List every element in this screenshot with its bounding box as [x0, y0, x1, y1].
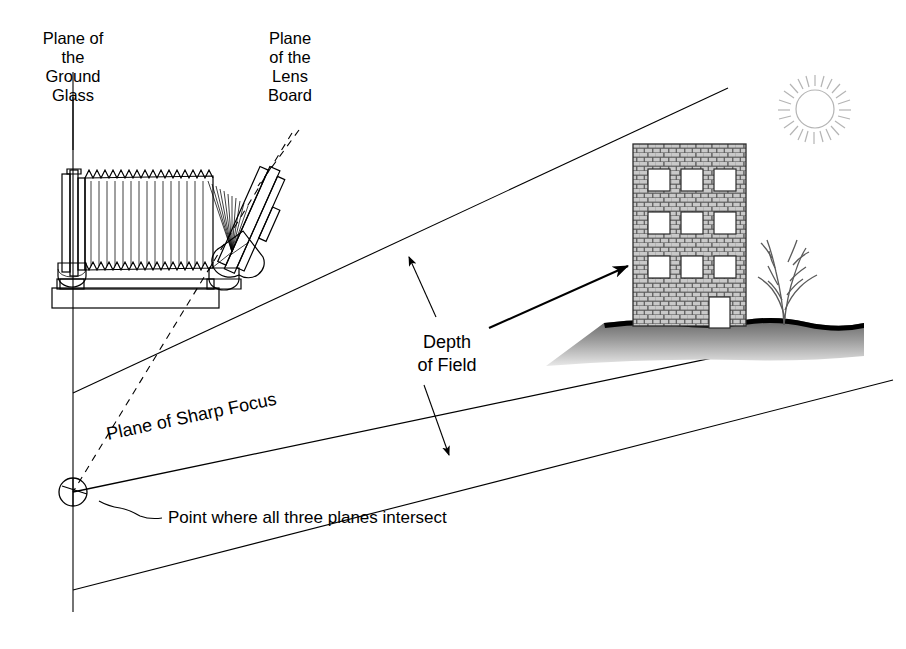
ground-glass-label-line2: the — [62, 48, 85, 66]
lens-board-label-line1: Plane — [269, 29, 311, 47]
intersect-note-leader — [99, 501, 162, 519]
lens-board-label-line2: of the — [269, 48, 310, 66]
lens-board-label-line4: Board — [268, 86, 312, 104]
scheimpflug-diagram: Plane of the Ground Glass Plane of the L… — [0, 0, 906, 649]
view-camera-icon — [52, 163, 295, 308]
building-door — [709, 297, 730, 328]
dof-arrow-down — [424, 385, 449, 455]
intersect-note-label: Point where all three planes intersect — [168, 508, 447, 527]
subject-pointer-arrow — [489, 266, 628, 328]
depth-of-field-label-line2: of Field — [417, 355, 476, 375]
lens-board-leader — [258, 130, 299, 186]
ground-glass-label-line3: Ground — [45, 67, 100, 85]
depth-of-field-label-line1: Depth — [423, 332, 471, 352]
tree-icon — [758, 240, 817, 325]
building-icon — [633, 144, 746, 328]
plane-of-sharp-focus-label: Plane of Sharp Focus — [105, 389, 279, 444]
intersection-point-marker — [59, 478, 87, 506]
diagram-canvas: Plane of the Ground Glass Plane of the L… — [0, 0, 906, 649]
lens-board-label-line3: Lens — [272, 67, 308, 85]
sun-icon — [778, 75, 851, 144]
ground-glass-label-line1: Plane of — [43, 29, 104, 47]
dof-arrow-up — [409, 257, 436, 317]
plane-of-lens-board-dashed-line — [73, 133, 292, 492]
bellows-pleats — [91, 181, 203, 266]
ground-glass-label-line4: Glass — [52, 86, 94, 104]
